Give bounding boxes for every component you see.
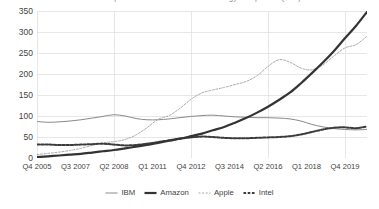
legend-label: Intel bbox=[259, 189, 274, 197]
series-line-amazon bbox=[37, 12, 367, 157]
series-lines bbox=[37, 12, 367, 157]
x-axis-tick-label: Q3 2014 bbox=[215, 162, 244, 172]
x-axis-tick-label: Q2 2016 bbox=[253, 162, 282, 172]
x-axis-tick-label: Q4 2019 bbox=[330, 162, 359, 172]
page-title: Market capitalisation of selected techno… bbox=[0, 0, 379, 2]
series-line-ibm bbox=[37, 115, 367, 130]
legend-item-amazon[interactable]: Amazon bbox=[144, 189, 189, 197]
y-axis-tick-label: 50 bbox=[24, 133, 33, 141]
dashed-swatch-icon bbox=[198, 189, 211, 197]
y-axis-tick-label: 350 bbox=[19, 7, 33, 15]
x-axis-tick-label: Q1 2011 bbox=[138, 162, 167, 172]
plot-svg bbox=[37, 11, 367, 158]
x-axis-tick-label: Q3 2007 bbox=[61, 162, 90, 172]
line-swatch-icon bbox=[144, 189, 157, 197]
x-axis-tick-label: Q4 2005 bbox=[22, 162, 51, 172]
chart-legend: IBMAmazonAppleIntel bbox=[0, 186, 379, 200]
legend-label: IBM bbox=[121, 189, 135, 197]
chart-container: Market capitalisation of selected techno… bbox=[0, 0, 379, 209]
chart-title-clipped: Market capitalisation of selected techno… bbox=[0, 0, 379, 7]
y-axis-tick-label: 300 bbox=[19, 28, 33, 36]
y-axis-tick-label: 200 bbox=[19, 70, 33, 78]
x-axis: Q4 2005Q3 2007Q2 2008Q1 2011Q4 2012Q3 20… bbox=[37, 162, 367, 174]
legend-label: Apple bbox=[214, 189, 234, 197]
x-axis-tick-label: Q2 2008 bbox=[99, 162, 128, 172]
legend-item-intel[interactable]: Intel bbox=[243, 189, 274, 197]
legend-item-ibm[interactable]: IBM bbox=[105, 189, 135, 197]
legend-item-apple[interactable]: Apple bbox=[198, 189, 234, 197]
line-swatch-icon bbox=[105, 189, 118, 197]
plot-area bbox=[37, 11, 367, 158]
y-axis-tick-label: 100 bbox=[19, 112, 33, 120]
x-axis-tick-label: Q1 2018 bbox=[292, 162, 321, 172]
legend-label: Amazon bbox=[160, 189, 189, 197]
y-axis-tick-label: 0 bbox=[28, 154, 33, 162]
y-axis: 050100150200250300350 bbox=[0, 11, 33, 158]
y-axis-tick-label: 250 bbox=[19, 49, 33, 57]
dashed-swatch-icon bbox=[243, 189, 256, 197]
y-axis-tick-label: 150 bbox=[19, 91, 33, 99]
x-axis-tick-label: Q4 2012 bbox=[176, 162, 205, 172]
series-line-intel bbox=[37, 127, 367, 146]
